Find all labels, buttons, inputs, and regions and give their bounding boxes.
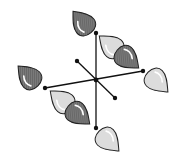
- center-atom: [94, 78, 99, 83]
- lobe-top-dark: [65, 4, 100, 40]
- atom-dot: [94, 126, 98, 130]
- orbital-lobes: [10, 4, 175, 157]
- atom-dot: [75, 59, 79, 63]
- atom-dot: [113, 96, 117, 100]
- atom-dot: [43, 86, 47, 90]
- orbital-diagram: [0, 0, 181, 157]
- lobe-right-light: [140, 64, 175, 99]
- atom-dot: [94, 31, 98, 35]
- atom-dot: [141, 69, 145, 73]
- lobe-left-dark: [10, 58, 45, 93]
- bond-lines: [43, 31, 145, 130]
